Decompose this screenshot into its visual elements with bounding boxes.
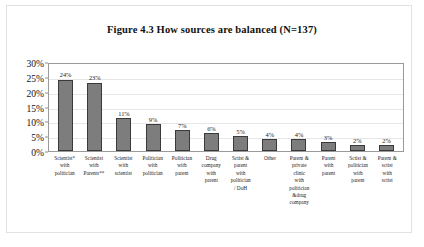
x-axis-label-line: sctist	[373, 177, 401, 184]
x-axis-label-line: parent	[226, 162, 254, 169]
x-axis-category-label: Politicianwithpolitician	[138, 155, 167, 207]
bar	[321, 142, 336, 151]
x-axis-label-line: Other	[256, 155, 284, 162]
x-axis-category-label: Drugcompanywithparent	[197, 155, 226, 207]
x-axis-label-line: Scientist*	[51, 155, 79, 162]
x-axis-label-line: with	[285, 177, 313, 184]
x-axis-label-line: parent	[314, 170, 342, 177]
x-axis-category-label: Scientistwithscientist	[109, 155, 138, 207]
bar-slot: 4%	[255, 64, 284, 151]
x-axis-category-label: Sctist &politicianwithparent	[343, 155, 372, 207]
bar	[291, 139, 306, 151]
x-axis-label-line: Politician	[138, 155, 166, 162]
x-axis-category-label: ScientistwithParents**	[79, 155, 108, 207]
x-axis-label-line: Politician	[168, 155, 196, 162]
x-axis: Scientist*withpoliticianScientistwithPar…	[48, 155, 404, 207]
bar	[116, 118, 131, 151]
x-axis-label-line: with	[373, 170, 401, 177]
bar-slot: 7%	[168, 64, 197, 151]
y-axis-tick-label: 25%	[26, 72, 44, 83]
x-axis-label-line: Drug	[197, 155, 225, 162]
x-axis-category-label: Politicianwithparent	[167, 155, 196, 207]
bar	[350, 145, 365, 151]
x-axis-label-line: Sctist &	[226, 155, 254, 162]
x-axis-label-line: &drug	[285, 192, 313, 199]
bar	[233, 136, 248, 151]
bar-slot: 9%	[139, 64, 168, 151]
bar-series: 24%23%11%9%7%6%5%4%4%3%2%2%	[49, 64, 403, 151]
bar	[262, 139, 277, 151]
bar-value-label: 2%	[366, 137, 404, 144]
x-axis-label-line: Scientist	[109, 155, 137, 162]
x-axis-label-line: company	[197, 162, 225, 169]
x-axis-label-line: Parents**	[80, 170, 108, 177]
bar-slot: 11%	[109, 64, 138, 151]
y-axis-tick-label: 0%	[31, 147, 44, 158]
x-axis-label-line: scientist	[109, 170, 137, 177]
x-axis-label-line: with	[314, 162, 342, 169]
bar	[175, 130, 190, 151]
x-axis-category-label: Parentwithparent	[314, 155, 343, 207]
y-axis-tick-label: 5%	[31, 132, 44, 143]
x-axis-category-label: Other	[255, 155, 284, 207]
chart-page: Figure 4.3 How sources are balanced (N=1…	[0, 0, 424, 247]
x-axis-label-line: politician	[138, 170, 166, 177]
x-axis-label-line: private	[285, 162, 313, 169]
x-axis-label-line: company	[285, 199, 313, 206]
bar-slot: 6%	[197, 64, 226, 151]
x-axis-label-line: sctist	[373, 162, 401, 169]
chart-title: Figure 4.3 How sources are balanced (N=1…	[0, 24, 424, 35]
x-axis-label-line: with	[138, 162, 166, 169]
y-axis-tick-label: 20%	[26, 87, 44, 98]
x-axis-label-line: parent	[168, 170, 196, 177]
x-axis-category-label: Sctist &parentwithpolitician/ DoH	[226, 155, 255, 207]
x-axis-label-line: politician	[285, 185, 313, 192]
x-axis-label-line: with	[80, 162, 108, 169]
x-axis-label-line: with	[109, 162, 137, 169]
x-axis-label-line: with	[51, 162, 79, 169]
x-axis-label-line: parent	[344, 177, 372, 184]
x-axis-label-line: Parent &	[373, 155, 401, 162]
bar-slot: 2%	[372, 64, 401, 151]
x-axis-label-line: parent	[197, 177, 225, 184]
plot-area: 24%23%11%9%7%6%5%4%4%3%2%2%	[48, 63, 404, 152]
x-axis-label-line: clinic	[285, 170, 313, 177]
bar	[87, 83, 102, 151]
bar-slot: 23%	[80, 64, 109, 151]
y-axis-tick-label: 10%	[26, 117, 44, 128]
x-axis-label-line: Parent	[314, 155, 342, 162]
x-axis-label-line: with	[168, 162, 196, 169]
x-axis-label-line: with	[197, 170, 225, 177]
x-axis-category-label: Scientist*withpolitician	[50, 155, 79, 207]
x-axis-label-line: politician	[344, 162, 372, 169]
x-axis-category-label: Parent &sctistwithsctist	[373, 155, 402, 207]
plot-wrapper: 24%23%11%9%7%6%5%4%4%3%2%2%	[48, 63, 404, 152]
x-axis-label-line: with	[226, 170, 254, 177]
x-axis-label-line: Sctist &	[344, 155, 372, 162]
bar	[58, 80, 73, 151]
bar-slot: 5%	[226, 64, 255, 151]
x-axis-label-line: politician	[51, 170, 79, 177]
bar	[204, 133, 219, 151]
x-axis-label-line: Parent &	[285, 155, 313, 162]
y-axis: 0%5%10%15%20%25%30%	[8, 58, 46, 157]
y-axis-tick-label: 15%	[26, 102, 44, 113]
bar	[146, 124, 161, 151]
x-axis-label-line: Scientist	[80, 155, 108, 162]
x-axis-label-line: / DoH	[226, 185, 254, 192]
x-axis-label-line: with	[344, 170, 372, 177]
x-axis-label-line: politician	[226, 177, 254, 184]
y-axis-tick-label: 30%	[26, 58, 44, 69]
bar	[379, 145, 394, 151]
x-axis-category-label: Parent &privateclinicwithpolitician&drug…	[285, 155, 314, 207]
